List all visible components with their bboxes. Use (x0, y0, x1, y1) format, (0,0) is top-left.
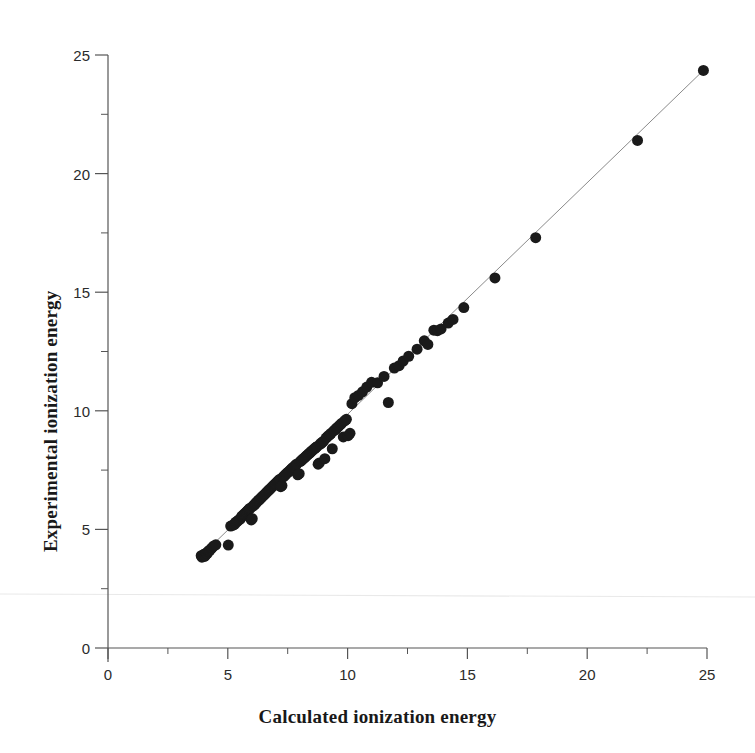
data-point (489, 272, 500, 283)
x-tick-label: 20 (579, 666, 596, 683)
y-axis-title: Experimental ionization energy (40, 291, 62, 552)
data-point (412, 344, 423, 355)
x-axis-title: Calculated ionization energy (0, 706, 755, 728)
data-point (327, 443, 338, 454)
scatter-plot-figure: Calculated ionization energy Experimenta… (0, 0, 755, 753)
data-point (403, 351, 414, 362)
y-tick-label: 5 (52, 521, 90, 538)
y-tick-label: 25 (52, 47, 90, 64)
x-tick-label: 25 (699, 666, 716, 683)
data-point (210, 539, 221, 550)
data-point (247, 513, 258, 524)
data-point (319, 453, 330, 464)
data-point (698, 65, 709, 76)
x-tick-label: 10 (339, 666, 356, 683)
data-point (341, 414, 352, 425)
data-point (223, 540, 234, 551)
x-tick-label: 5 (224, 666, 232, 683)
data-point (383, 397, 394, 408)
y-tick-label: 20 (52, 165, 90, 182)
y-tick-label: 0 (52, 640, 90, 657)
data-point (632, 135, 643, 146)
x-tick-label: 15 (459, 666, 476, 683)
data-point (345, 428, 356, 439)
plot-canvas (0, 0, 755, 753)
data-point (294, 468, 305, 479)
data-point (458, 302, 469, 313)
data-point (448, 314, 459, 325)
y-tick-label: 10 (52, 402, 90, 419)
figure-background (0, 0, 755, 753)
data-point (379, 371, 390, 382)
x-tick-label: 0 (104, 666, 112, 683)
y-tick-label: 15 (52, 284, 90, 301)
data-point (530, 232, 541, 243)
data-point (422, 339, 433, 350)
